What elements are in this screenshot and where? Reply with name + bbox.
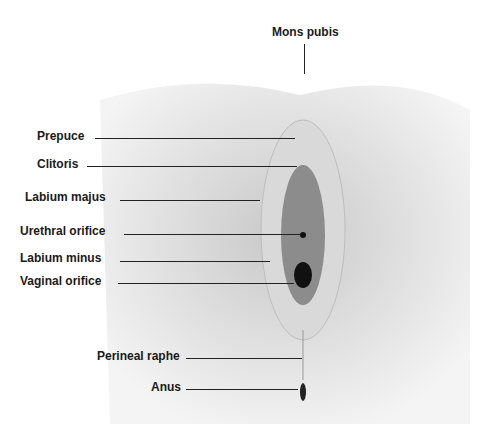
leader-line	[186, 389, 298, 390]
leader-line	[120, 200, 260, 201]
label-anus: Anus	[151, 380, 181, 394]
illustration	[0, 0, 480, 424]
label-urethral-orifice: Urethral orifice	[20, 224, 105, 238]
anatomy-diagram: Mons pubis Prepuce Clitoris Labium majus…	[0, 0, 480, 424]
leader-line	[186, 358, 302, 359]
label-mons-pubis: Mons pubis	[272, 25, 339, 39]
label-vaginal-orifice: Vaginal orifice	[20, 274, 101, 288]
leader-line	[87, 166, 297, 167]
leader-line	[118, 283, 294, 284]
leader-line	[124, 234, 300, 235]
label-clitoris: Clitoris	[37, 157, 78, 171]
label-prepuce: Prepuce	[37, 129, 84, 143]
label-perineal-raphe: Perineal raphe	[97, 349, 180, 363]
leader-line	[95, 138, 295, 139]
label-labium-majus: Labium majus	[25, 190, 106, 204]
leader-line	[304, 44, 305, 74]
leader-line	[120, 261, 270, 262]
label-labium-minus: Labium minus	[20, 251, 101, 265]
